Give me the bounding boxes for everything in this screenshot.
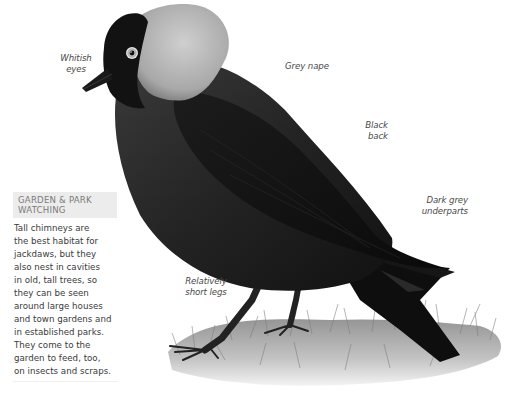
eye [126,47,138,59]
heading-line: WATCHING [18,205,113,215]
label-black-back: Black back [336,120,388,142]
heading-line: GARDEN & PARK [18,195,113,205]
body-line: around large houses [14,300,117,313]
body-line: the best habitat for [14,235,117,248]
label-line: Relatively [178,276,234,287]
label-short-legs: Relatively short legs [178,276,234,298]
body-line: in established parks. [14,326,117,339]
garden-park-panel: GARDEN & PARK WATCHING Tall chimneys are… [13,192,117,382]
body-line: They come to the [14,339,117,352]
body-line: also nest in cavities [14,261,117,274]
label-line: short legs [178,287,234,298]
label-line: Dark grey [396,195,468,206]
label-line: Black [336,120,388,131]
body-line: Tall chimneys are [14,222,117,235]
panel-divider [13,381,118,382]
panel-heading: GARDEN & PARK WATCHING [13,192,117,218]
body-line: garden to feed, too, [14,352,117,365]
body-line: jackdaws, but they [14,248,117,261]
body-line: in old, tall trees, so [14,274,117,287]
label-line: Whitish [52,53,100,64]
body-line: and town gardens and [14,313,117,326]
body-line: on insects and scraps. [14,365,117,378]
label-line: back [336,131,388,142]
label-whitish-eyes: Whitish eyes [52,53,100,75]
label-line: eyes [52,64,100,75]
body-line: they can be seen [14,287,117,300]
label-dark-grey-underparts: Dark grey underparts [396,195,468,217]
label-line: underparts [396,206,468,217]
panel-body: Tall chimneys are the best habitat for j… [13,222,117,378]
label-grey-nape: Grey nape [285,61,329,72]
label-line: Grey nape [285,61,329,71]
